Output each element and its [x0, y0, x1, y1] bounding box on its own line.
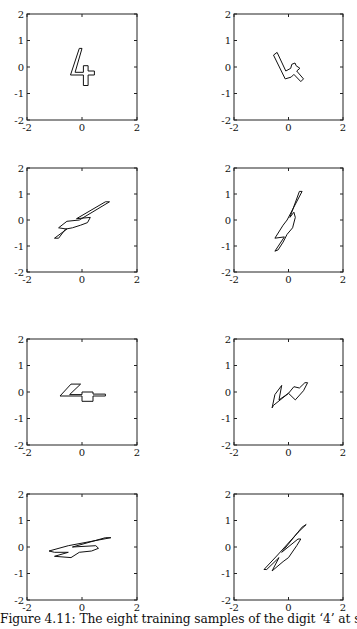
y-tick-label: 2 [18, 489, 24, 500]
subplot-1: 210-1-2-202 [14, 9, 140, 134]
y-tick-label: 1 [225, 189, 231, 200]
x-tick-label: 0 [79, 122, 85, 133]
x-tick-label: 0 [285, 274, 291, 285]
axes-frame [234, 339, 343, 445]
subplot-6: 210-1-2-202 [221, 334, 346, 459]
y-tick-label: 1 [18, 35, 24, 46]
y-tick-label: 2 [225, 334, 231, 345]
x-tick-label: 0 [79, 602, 85, 612]
y-tick-label: -1 [14, 88, 24, 99]
x-tick-label: -2 [22, 122, 32, 133]
digit-outline [274, 52, 304, 81]
x-tick-label: -2 [229, 602, 239, 612]
x-tick-label: 2 [340, 447, 346, 458]
subplot-8: 210-1-2-202 [221, 489, 346, 613]
y-tick-label: -1 [221, 568, 231, 579]
y-tick-label: 0 [225, 215, 231, 226]
x-tick-label: 0 [285, 602, 291, 612]
y-tick-label: 0 [18, 215, 24, 226]
subplot-2: 210-1-2-202 [221, 9, 346, 134]
y-tick-label: 1 [18, 515, 24, 526]
axes-frame [27, 14, 137, 120]
digit-outline [71, 48, 95, 85]
x-tick-label: 0 [79, 447, 85, 458]
figure-caption: Figure 4.11: The eight training samples … [0, 612, 357, 626]
x-tick-label: 0 [285, 122, 291, 133]
axes-frame [27, 168, 137, 272]
x-tick-label: 2 [134, 447, 140, 458]
y-tick-label: 1 [225, 35, 231, 46]
y-tick-label: 0 [18, 387, 24, 398]
y-tick-label: 0 [225, 542, 231, 553]
digit-outline [60, 384, 105, 401]
y-tick-label: -1 [14, 241, 24, 252]
x-tick-label: 2 [340, 602, 346, 612]
digit-outline [49, 538, 111, 558]
digit-outline [55, 202, 110, 238]
subplot-4: 210-1-2-202 [221, 163, 346, 286]
subplot-7: 210-1-2-202 [14, 489, 140, 613]
axes-frame [234, 168, 343, 272]
y-tick-label: 2 [18, 334, 24, 345]
y-tick-label: -1 [14, 413, 24, 424]
y-tick-label: 1 [225, 360, 231, 371]
y-tick-label: 0 [225, 62, 231, 73]
figure: 210-1-2-202210-1-2-202210-1-2-202210-1-2… [0, 0, 357, 612]
y-tick-label: 2 [225, 489, 231, 500]
x-tick-label: -2 [22, 274, 32, 285]
axes-frame [27, 494, 137, 600]
y-tick-label: -1 [221, 241, 231, 252]
x-tick-label: 2 [134, 122, 140, 133]
y-tick-label: 2 [225, 9, 231, 20]
x-tick-label: -2 [22, 447, 32, 458]
y-tick-label: 0 [18, 542, 24, 553]
y-tick-label: 2 [225, 163, 231, 174]
x-tick-label: -2 [229, 122, 239, 133]
x-tick-label: 2 [134, 602, 140, 612]
digit-outline [264, 525, 306, 571]
x-tick-label: 2 [340, 274, 346, 285]
axes-frame [234, 14, 343, 120]
y-tick-label: 2 [18, 9, 24, 20]
y-tick-label: 1 [18, 360, 24, 371]
y-tick-label: 0 [18, 62, 24, 73]
y-tick-label: 2 [18, 163, 24, 174]
y-tick-label: 1 [18, 189, 24, 200]
x-tick-label: -2 [22, 602, 32, 612]
y-tick-label: 0 [225, 387, 231, 398]
y-tick-label: -1 [14, 568, 24, 579]
subplot-3: 210-1-2-202 [14, 163, 140, 286]
subplot-5: 210-1-2-202 [14, 334, 140, 459]
x-tick-label: -2 [229, 447, 239, 458]
x-tick-label: 0 [285, 447, 291, 458]
x-tick-label: -2 [229, 274, 239, 285]
y-tick-label: 1 [225, 515, 231, 526]
x-tick-label: 2 [340, 122, 346, 133]
y-tick-label: -1 [221, 88, 231, 99]
digit-outline [275, 191, 302, 251]
y-tick-label: -1 [221, 413, 231, 424]
x-tick-label: 0 [79, 274, 85, 285]
x-tick-label: 2 [134, 274, 140, 285]
digit-outline [272, 383, 308, 408]
